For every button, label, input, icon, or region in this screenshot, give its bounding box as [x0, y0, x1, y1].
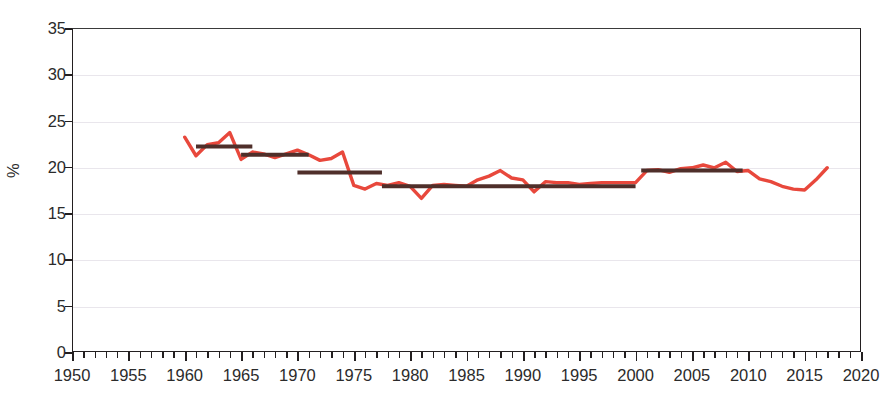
chart-figure: % 05101520253035 19501955196019651970197… [0, 0, 891, 407]
series-layer [0, 0, 891, 407]
series-line-annual [185, 133, 827, 199]
